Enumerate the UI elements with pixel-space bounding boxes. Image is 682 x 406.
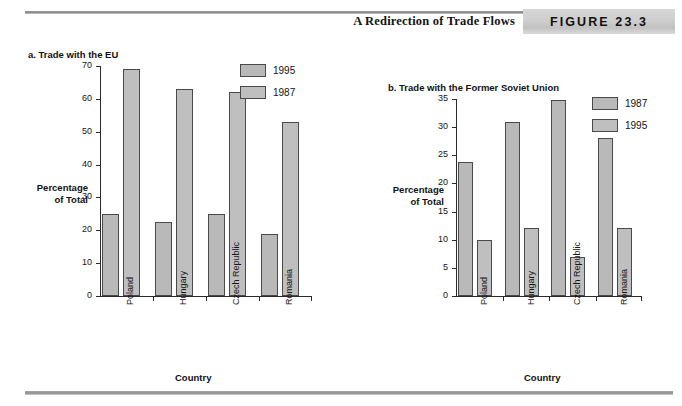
bar-poland-1995 [102,214,119,296]
y-axis-tick-label: 0 [422,290,448,300]
bar-hungary-1987 [176,89,193,296]
legend-label-1995: 1995 [273,65,295,76]
x-axis-tick [596,297,597,301]
chart-a-x-axis-label: Country [175,372,211,383]
legend-label-1995: 1995 [625,120,647,131]
x-axis-category-label: Poland [479,277,489,305]
y-axis-tick-label: 20 [66,224,92,234]
chart-b-x-axis-label: Country [524,372,560,383]
y-axis-tick-label: 0 [66,290,92,300]
y-axis-tick [452,99,456,100]
y-axis-tick-label: 20 [422,177,448,187]
bar-czech-republic-1995 [208,214,225,296]
x-axis-category-label: Romania [284,269,294,305]
y-axis-tick [452,155,456,156]
x-axis-category-label: Poland [125,277,135,305]
x-axis-tick [206,297,207,301]
y-axis-tick [452,296,456,297]
x-axis-category-label: Romania [619,269,629,305]
legend-item-1987: 1987 [240,86,295,99]
y-axis-tick [96,132,100,133]
legend-label-1987: 1987 [625,98,647,109]
y-axis-tick-label: 30 [422,121,448,131]
legend-swatch-1995 [240,64,266,77]
y-axis-tick-label: 50 [66,126,92,136]
y-axis-tick [96,230,100,231]
y-axis-tick [96,99,100,100]
y-axis-tick-label: 70 [66,60,92,70]
bar-czech-republic-1987 [551,100,566,296]
x-axis-category-label: Hungary [526,271,536,305]
legend-swatch-1987 [592,97,618,110]
x-axis-category-label: Hungary [178,271,188,305]
y-axis-tick [96,165,100,166]
y-axis-tick [96,66,100,67]
bar-poland-1987 [458,162,473,296]
x-axis-tick [503,297,504,301]
chart-a-legend: 19951987 [240,64,340,106]
x-axis-category-label: Czech Republic [231,242,241,305]
y-axis-tick [452,268,456,269]
legend-swatch-1987 [240,86,266,99]
chart-panel-fsu: b. Trade with the Former Soviet Union Pe… [360,0,682,406]
chart-a-title: a. Trade with the EU [28,49,118,60]
y-axis-tick [452,240,456,241]
y-axis-tick [96,197,100,198]
y-axis-line [456,99,457,297]
y-axis-tick-label: 10 [422,234,448,244]
chart-b-legend: 19871995 [592,97,682,139]
y-axis-tick-label: 40 [66,159,92,169]
y-axis-tick [452,212,456,213]
legend-item-1987: 1987 [592,97,647,110]
chart-b-y-axis-label: Percentage of Total [372,184,444,208]
y-axis-tick [96,263,100,264]
chart-b-title: b. Trade with the Former Soviet Union [388,82,559,93]
y-axis-tick-label: 35 [422,93,448,103]
bar-romania-1987 [598,138,613,296]
y-axis-tick-label: 30 [66,191,92,201]
legend-swatch-1995 [592,119,618,132]
legend-item-1995: 1995 [592,119,647,132]
y-axis-tick-label: 10 [66,257,92,267]
x-axis-tick [641,297,642,301]
y-axis-tick [452,183,456,184]
bar-hungary-1987 [505,122,520,296]
y-axis-tick-label: 5 [422,262,448,272]
y-axis-tick-label: 15 [422,206,448,216]
x-axis-tick [549,297,550,301]
legend-item-1995: 1995 [240,64,295,77]
bar-poland-1987 [123,69,140,296]
bar-hungary-1995 [155,222,172,296]
y-axis-tick [96,296,100,297]
x-axis-category-label: Czech Republic [572,242,582,305]
x-axis-tick [311,297,312,301]
bar-romania-1995 [261,234,278,296]
y-axis-tick [452,127,456,128]
x-axis-tick [153,297,154,301]
y-axis-tick-label: 60 [66,93,92,103]
legend-label-1987: 1987 [273,87,295,98]
figure-page: A Redirection of Trade Flows FIGURE 23.3… [0,0,682,406]
chart-panel-eu: a. Trade with the EU Percentage of Total… [0,0,360,406]
x-axis-tick [259,297,260,301]
y-axis-tick-label: 25 [422,149,448,159]
